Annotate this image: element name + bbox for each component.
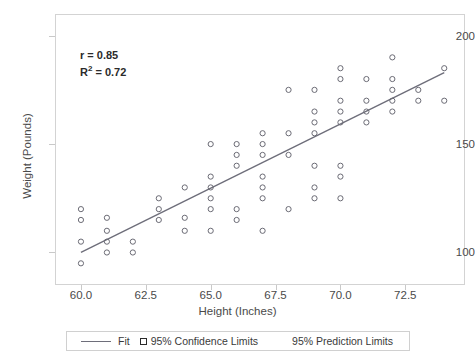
data-point — [234, 163, 239, 168]
x-tick-mark — [276, 285, 277, 290]
x-tick-mark — [405, 285, 406, 290]
data-point — [312, 163, 317, 168]
data-point — [234, 141, 239, 146]
data-point — [78, 261, 83, 266]
data-point — [338, 76, 343, 81]
data-point — [208, 174, 213, 179]
title-strip — [0, 0, 475, 12]
legend-label-prediction: 95% Prediction Limits — [292, 335, 393, 347]
y-axis-label: Weight (Pounds) — [21, 76, 33, 236]
data-point — [260, 141, 265, 146]
data-point — [312, 185, 317, 190]
chart-legend: Fit 95% Confidence Limits 95% Prediction… — [66, 331, 410, 351]
data-point — [338, 163, 343, 168]
x-tick-label: 67.5 — [246, 289, 306, 301]
square-swatch-icon — [140, 338, 147, 345]
data-point — [260, 228, 265, 233]
data-point — [390, 109, 395, 114]
legend-label-fit: Fit — [118, 335, 130, 347]
data-point — [286, 207, 291, 212]
data-point — [260, 131, 265, 136]
data-point — [234, 217, 239, 222]
data-point — [234, 152, 239, 157]
data-point — [260, 152, 265, 157]
y-tick-mark — [49, 252, 55, 253]
data-point — [338, 66, 343, 71]
y-tick-label: 150 — [431, 138, 475, 150]
data-point — [390, 87, 395, 92]
x-tick-label: 60.0 — [51, 289, 111, 301]
data-point — [130, 250, 135, 255]
data-point — [312, 131, 317, 136]
data-point — [78, 207, 83, 212]
data-point — [286, 131, 291, 136]
data-point — [286, 87, 291, 92]
data-point — [234, 207, 239, 212]
data-point — [182, 185, 187, 190]
legend-item-prediction-limits[interactable]: 95% Prediction Limits — [292, 335, 393, 347]
data-point — [364, 76, 369, 81]
data-point — [260, 174, 265, 179]
data-point — [208, 141, 213, 146]
y-tick-mark — [49, 144, 55, 145]
data-point — [260, 196, 265, 201]
x-tick-label: 70.0 — [310, 289, 370, 301]
data-point — [364, 120, 369, 125]
data-point — [442, 66, 447, 71]
data-point — [364, 98, 369, 103]
data-point — [104, 228, 109, 233]
data-point — [104, 250, 109, 255]
data-point — [208, 196, 213, 201]
y-tick-label: 200 — [431, 30, 475, 42]
data-point — [182, 228, 187, 233]
legend-item-confidence-limits[interactable]: 95% Confidence Limits — [140, 335, 258, 347]
x-tick-mark — [81, 285, 82, 290]
data-point — [416, 98, 421, 103]
legend-item-fit[interactable]: Fit — [81, 335, 130, 347]
data-point — [390, 55, 395, 60]
chart-page: 100150200 Weight (Pounds) 60.062.565.067… — [0, 0, 475, 354]
r-squared-value: R2 = 0.72 — [80, 62, 126, 79]
data-point — [338, 109, 343, 114]
data-point — [338, 196, 343, 201]
data-point — [78, 239, 83, 244]
data-point — [182, 215, 187, 220]
data-point — [286, 152, 291, 157]
data-point — [208, 228, 213, 233]
legend-label-confidence: 95% Confidence Limits — [151, 335, 258, 347]
x-tick-mark — [211, 285, 212, 290]
data-point — [130, 239, 135, 244]
data-point — [156, 196, 161, 201]
data-point — [338, 174, 343, 179]
x-axis-label: Height (Inches) — [0, 305, 475, 317]
data-point — [312, 120, 317, 125]
correlation-annotation: r = 0.85 R2 = 0.72 — [80, 48, 126, 79]
data-point — [156, 217, 161, 222]
y-tick-mark — [49, 36, 55, 37]
data-point — [312, 109, 317, 114]
data-point — [390, 76, 395, 81]
data-point — [442, 98, 447, 103]
x-tick-label: 72.5 — [375, 289, 435, 301]
line-swatch-icon — [81, 341, 111, 342]
x-tick-mark — [340, 285, 341, 290]
data-point — [312, 196, 317, 201]
x-tick-label: 62.5 — [116, 289, 176, 301]
r-value: r = 0.85 — [80, 48, 126, 62]
data-point — [312, 87, 317, 92]
data-point — [208, 207, 213, 212]
data-point — [78, 217, 83, 222]
data-point — [156, 207, 161, 212]
data-point — [338, 98, 343, 103]
y-tick-label: 100 — [431, 246, 475, 258]
data-point — [416, 87, 421, 92]
data-point — [260, 185, 265, 190]
data-point — [104, 215, 109, 220]
x-tick-label: 65.0 — [181, 289, 241, 301]
x-tick-mark — [146, 285, 147, 290]
